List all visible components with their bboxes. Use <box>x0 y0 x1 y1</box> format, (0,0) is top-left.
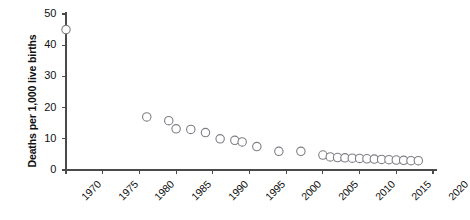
y-tick-label: 30 <box>30 69 56 81</box>
y-tick-label: 0 <box>30 163 56 175</box>
data-point <box>165 117 173 125</box>
data-point <box>62 25 70 33</box>
data-point <box>275 147 283 155</box>
data-point <box>238 138 246 146</box>
y-tick-label: 20 <box>30 101 56 113</box>
axes <box>62 12 437 174</box>
data-point <box>201 128 209 136</box>
data-point <box>297 147 305 155</box>
data-point <box>414 156 422 164</box>
y-tick-label: 50 <box>30 7 56 19</box>
y-tick-label: 40 <box>30 38 56 50</box>
y-tick-label: 10 <box>30 132 56 144</box>
data-points <box>62 25 423 164</box>
data-point <box>216 135 224 143</box>
data-point <box>143 113 151 121</box>
data-point <box>253 142 261 150</box>
data-point <box>172 125 180 133</box>
data-point <box>187 125 195 133</box>
